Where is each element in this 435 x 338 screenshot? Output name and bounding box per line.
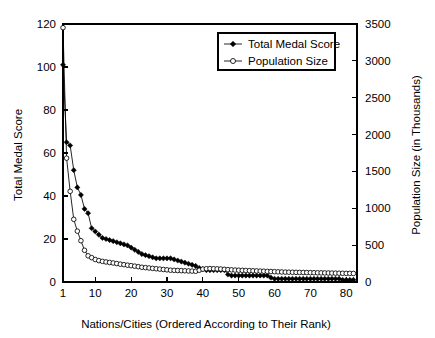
x-axis: 11020304050607080 [60,277,353,299]
x-tick-label: 60 [268,287,281,299]
x-tick-label: 30 [161,287,174,299]
data-point-marker [71,217,76,222]
y-tick-label: 20 [43,233,56,245]
y-tick-label: 80 [43,104,56,116]
data-point-marker [75,185,80,190]
data-point-marker [64,156,69,161]
legend-item-label: Population Size [248,55,328,67]
chart-container: 11020304050607080 020406080100120 050010… [0,0,435,338]
y-axis-right: 0500100015002000250030003500 [352,18,391,288]
y-tick-label: 120 [37,18,56,30]
y-tick-label: 40 [43,190,56,202]
y2-tick-label: 3000 [365,55,391,67]
data-point-marker [61,25,66,30]
x-tick-label: 50 [232,287,245,299]
data-point-marker [82,248,87,253]
y-axis-left-title: Total Medal Score [12,109,24,201]
data-point-marker [71,168,76,173]
data-point-marker [79,238,84,243]
y2-tick-label: 1000 [365,202,391,214]
data-point-marker [75,229,80,234]
y2-tick-label: 2500 [365,92,391,104]
y2-tick-label: 1500 [365,165,391,177]
x-tick-label: 20 [125,287,138,299]
series-total-medal-score [60,62,356,282]
y-tick-label: 0 [50,276,56,288]
x-tick-label: 40 [196,287,209,299]
x-tick-label: 1 [60,287,66,299]
medal-score-population-chart: 11020304050607080 020406080100120 050010… [0,0,435,338]
legend-marker-open-circle-icon [231,59,236,64]
chart-legend: Total Medal ScorePopulation Size [218,33,340,70]
x-tick-label: 70 [304,287,317,299]
series-line [63,65,353,280]
data-point-marker [78,192,83,197]
y-tick-label: 60 [43,147,56,159]
data-point-marker [351,271,356,276]
y2-tick-label: 3500 [365,18,391,30]
x-axis-title: Nations/Cities (Ordered According to The… [81,318,331,330]
y2-tick-label: 2000 [365,129,391,141]
y2-tick-label: 0 [365,276,371,288]
y-axis-right-title: Population Size (in Thousands) [410,75,422,235]
legend-item-label: Total Medal Score [248,38,340,50]
y-tick-label: 100 [37,61,56,73]
x-tick-label: 10 [89,287,102,299]
data-point-marker [68,189,73,194]
x-tick-label: 80 [340,287,353,299]
y2-tick-label: 500 [365,239,384,251]
